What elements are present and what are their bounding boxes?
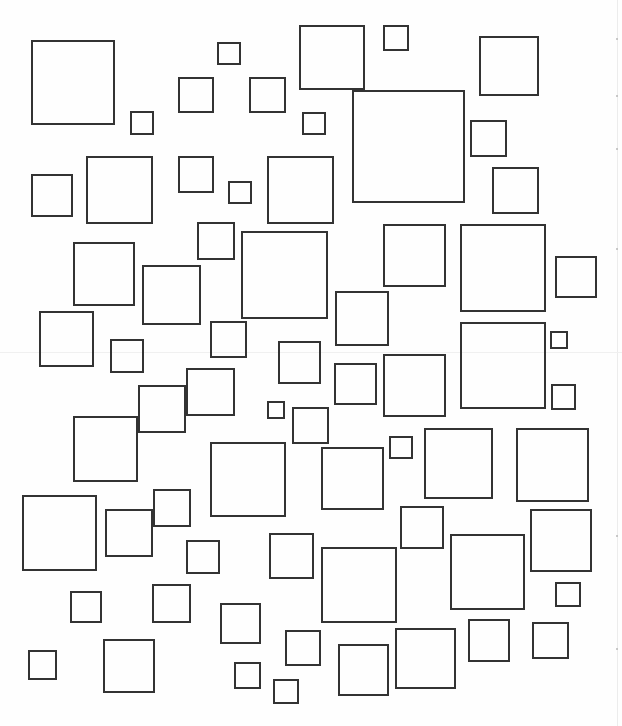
square-outline bbox=[105, 509, 153, 557]
square-outline bbox=[249, 77, 286, 113]
square-outline bbox=[73, 242, 135, 306]
square-outline bbox=[138, 385, 186, 433]
square-outline bbox=[241, 231, 328, 319]
square-outline bbox=[468, 619, 510, 662]
square-outline bbox=[31, 174, 73, 217]
square-outline bbox=[267, 156, 334, 224]
square-outline bbox=[302, 112, 326, 135]
square-outline bbox=[103, 639, 155, 693]
square-outline bbox=[460, 224, 546, 312]
square-outline bbox=[39, 311, 94, 367]
square-outline bbox=[234, 662, 261, 689]
square-outline bbox=[321, 547, 397, 623]
square-outline bbox=[383, 224, 446, 287]
square-outline bbox=[321, 447, 384, 510]
square-outline bbox=[334, 363, 377, 405]
square-outline bbox=[400, 506, 444, 549]
square-outline bbox=[551, 384, 576, 410]
square-outline bbox=[70, 591, 102, 623]
square-outline bbox=[73, 416, 138, 482]
square-outline bbox=[550, 331, 568, 349]
square-outline bbox=[492, 167, 539, 214]
scan-dot bbox=[616, 95, 618, 97]
square-outline bbox=[470, 120, 507, 157]
square-outline bbox=[153, 489, 191, 527]
square-outline bbox=[110, 339, 144, 373]
square-outline bbox=[22, 495, 97, 571]
square-outline bbox=[31, 40, 115, 125]
square-outline bbox=[335, 291, 389, 346]
square-outline bbox=[178, 77, 214, 113]
square-outline bbox=[383, 354, 446, 417]
square-outline bbox=[269, 533, 314, 579]
square-outline bbox=[217, 42, 241, 65]
square-outline bbox=[555, 582, 581, 607]
square-outline bbox=[292, 407, 329, 444]
square-outline bbox=[352, 90, 465, 203]
square-outline bbox=[210, 321, 247, 358]
square-outline bbox=[555, 256, 597, 298]
scan-dot bbox=[616, 148, 618, 150]
square-outline bbox=[278, 341, 321, 384]
square-outline bbox=[220, 603, 261, 644]
square-outline bbox=[424, 428, 493, 499]
square-outline bbox=[479, 36, 539, 96]
square-outline bbox=[532, 622, 569, 659]
square-outline bbox=[530, 509, 592, 572]
scan-dot bbox=[616, 535, 618, 537]
square-outline bbox=[86, 156, 153, 224]
square-outline bbox=[460, 322, 546, 409]
scan-dot bbox=[616, 648, 618, 650]
square-outline bbox=[186, 540, 220, 574]
square-outline bbox=[383, 25, 409, 51]
square-outline bbox=[299, 25, 365, 90]
square-outline bbox=[273, 679, 299, 704]
square-outline bbox=[228, 181, 252, 204]
scan-artifact-vertical-line bbox=[617, 0, 618, 726]
scan-dot bbox=[616, 38, 618, 40]
square-outline bbox=[210, 442, 286, 517]
square-outline bbox=[285, 630, 321, 666]
square-outline bbox=[516, 428, 589, 502]
squares-diagram bbox=[0, 0, 622, 726]
scan-dot bbox=[616, 248, 618, 250]
square-outline bbox=[142, 265, 201, 325]
square-outline bbox=[267, 401, 285, 419]
square-outline bbox=[152, 584, 191, 623]
square-outline bbox=[338, 644, 389, 696]
square-outline bbox=[178, 156, 214, 193]
square-outline bbox=[197, 222, 235, 260]
square-outline bbox=[130, 111, 154, 135]
square-outline bbox=[450, 534, 525, 610]
square-outline bbox=[28, 650, 57, 680]
square-outline bbox=[186, 368, 235, 416]
square-outline bbox=[395, 628, 456, 689]
square-outline bbox=[389, 436, 413, 459]
